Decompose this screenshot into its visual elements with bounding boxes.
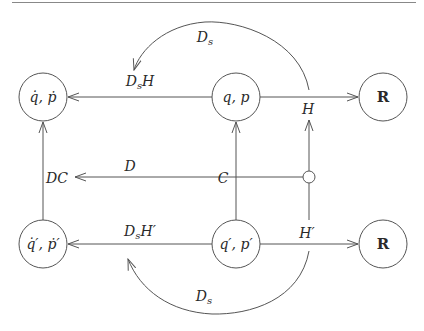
diagram-canvas: [0, 0, 424, 331]
edge-dc-label: DC: [46, 171, 68, 185]
ds-bottom-sub: s: [207, 295, 212, 306]
edge-h-label: H: [302, 102, 314, 116]
ds-bottom-main: D: [196, 288, 207, 304]
node-q-p-prime-label: q′, p′: [219, 237, 252, 251]
edge-ds-top-label: Ds: [197, 30, 213, 47]
ds-hprime-main: D: [124, 223, 135, 239]
edge-ds-h-label: DsH: [126, 74, 155, 91]
junction-circle: [303, 171, 315, 183]
ds-top-sub: s: [208, 36, 213, 47]
node-qdot-pdot-prime-label: q̇′, ṗ′: [26, 237, 59, 251]
edge-ds-top-arc: [134, 22, 309, 90]
ds-hprime-tail: H′: [140, 223, 155, 239]
ds-h-main: D: [126, 73, 137, 89]
node-r-top-label: R: [377, 90, 389, 105]
ds-h-tail: H: [142, 73, 154, 89]
node-qdot-pdot-label: q̇, ṗ: [30, 90, 57, 104]
node-q-p-label: q, p: [223, 90, 250, 104]
edge-d-label: D: [124, 159, 135, 173]
edge-ds-bottom-label: Ds: [196, 289, 212, 306]
node-r-bottom-label: R: [377, 237, 389, 252]
edge-hprime-label: H′: [299, 226, 314, 240]
edge-ds-hprime-label: DsH′: [124, 224, 156, 241]
edge-c-label: C: [218, 171, 229, 185]
ds-top-main: D: [197, 29, 208, 45]
